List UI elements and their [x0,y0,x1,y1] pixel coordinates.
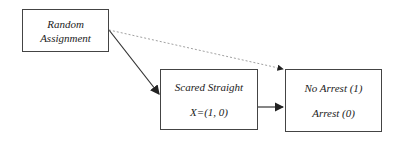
node-label: Arrest (0) [312,106,355,120]
node-label: X=(1, 0) [190,105,228,119]
node-label: No Arrest (1) [304,81,362,95]
node-label: Scared Straight [175,80,243,94]
scared-straight-node: Scared Straight X=(1, 0) [160,69,258,130]
edge-random-to-treatment [109,30,159,94]
node-label: Assignment [40,31,91,45]
outcome-node: No Arrest (1) Arrest (0) [285,69,382,132]
random-assignment-node: Random Assignment [22,9,109,52]
node-label: Random [47,17,84,31]
